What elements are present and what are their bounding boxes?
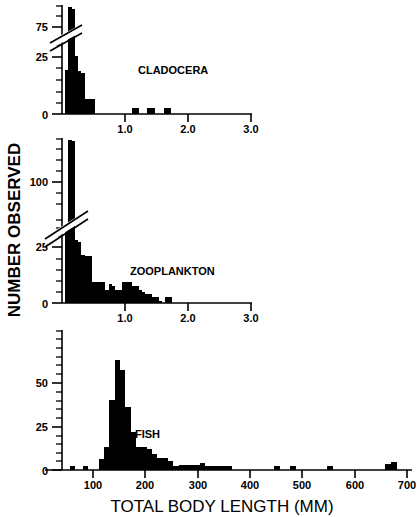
zooplankton-ytick-100: 100: [30, 176, 48, 188]
zooplankton-xtick-2: 2.0: [180, 312, 195, 324]
fish-xtick-700: 700: [398, 479, 416, 491]
fish-xtick-600: 600: [346, 479, 364, 491]
panel-fish: 0 25 50 100 200 300 400 500 600 700: [36, 330, 416, 491]
fish-ytick-0: 0: [42, 465, 48, 477]
fish-xtick-300: 300: [189, 479, 207, 491]
fish-xtick-100: 100: [84, 479, 102, 491]
fish-x-ticks: [93, 470, 407, 478]
cladocera-xtick-2: 2.0: [180, 123, 195, 135]
panel-zooplankton: 0 25 100 1.0 2.0 3.0: [30, 138, 259, 324]
cladocera-xtick-3: 3.0: [243, 123, 258, 135]
x-axis-title: TOTAL BODY LENGTH (MM): [110, 497, 333, 516]
cladocera-ytick-0: 0: [42, 109, 48, 121]
fish-xtick-500: 500: [293, 479, 311, 491]
fish-xtick-200: 200: [136, 479, 154, 491]
figure-container: NUMBER OBSERVED 0: [0, 0, 420, 517]
zooplankton-xtick-1: 1.0: [117, 312, 132, 324]
cladocera-ytick-25: 25: [36, 51, 48, 63]
fish-y-ticks: [52, 331, 62, 470]
cladocera-bars: [65, 7, 171, 114]
zooplankton-y-ticks: [52, 139, 62, 303]
cladocera-axis-break: [50, 25, 82, 51]
zooplankton-ytick-0: 0: [42, 298, 48, 310]
zooplankton-label: ZOOPLANKTON: [130, 265, 215, 277]
fish-ytick-25: 25: [36, 421, 48, 433]
cladocera-ytick-75: 75: [36, 21, 48, 33]
y-axis-title: NUMBER OBSERVED: [5, 143, 24, 317]
fish-ytick-50: 50: [36, 377, 48, 389]
fish-xtick-400: 400: [241, 479, 259, 491]
zooplankton-x-ticks: [125, 303, 251, 311]
cladocera-xtick-1: 1.0: [117, 123, 132, 135]
fish-label: FISH: [135, 428, 160, 440]
panel-cladocera: 0 25 75 1.0 2.0 3.0: [36, 5, 259, 135]
fish-bars: [70, 360, 397, 470]
histogram-figure: NUMBER OBSERVED 0: [0, 0, 420, 517]
cladocera-label: CLADOCERA: [138, 64, 208, 76]
cladocera-y-ticks: [52, 6, 62, 114]
zooplankton-xtick-3: 3.0: [243, 312, 258, 324]
cladocera-x-ticks: [125, 114, 251, 122]
